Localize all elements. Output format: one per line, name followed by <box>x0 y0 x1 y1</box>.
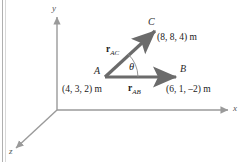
point-c-coordinates: (8, 8, 4) m <box>157 33 197 43</box>
z-axis-line <box>16 110 57 148</box>
vector-diagram-figure: y x z A (4, 3, 2) m B (6, 1, –2) m C (8,… <box>0 0 248 162</box>
z-axis-label: z <box>9 147 13 156</box>
point-a-coordinates: (4, 3, 2) m <box>62 85 102 95</box>
y-axis-label: y <box>52 4 56 13</box>
vector-rab-subscript: AB <box>132 88 141 96</box>
vector-rac-label: rAC <box>106 45 119 57</box>
vector-rac-subscript: AC <box>110 49 119 57</box>
diagram-canvas <box>0 0 248 162</box>
x-axis-label: x <box>233 104 237 113</box>
point-c-label: C <box>148 17 155 27</box>
angle-theta-label: θ <box>129 62 134 73</box>
point-b-label: B <box>180 64 186 74</box>
point-a-label: A <box>94 66 100 76</box>
vector-rab-label: rAB <box>128 84 141 96</box>
point-b-coordinates: (6, 1, –2) m <box>166 85 211 95</box>
